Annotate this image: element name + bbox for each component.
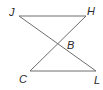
geometry-figure: J H B C L [0, 0, 103, 90]
label-h: H [87, 5, 95, 17]
label-b: B [67, 39, 74, 51]
segment-hc [30, 16, 86, 71]
figure-canvas: J H B C L [0, 0, 103, 90]
label-l: L [94, 74, 100, 86]
label-c: C [19, 73, 27, 85]
label-j: J [8, 6, 15, 18]
